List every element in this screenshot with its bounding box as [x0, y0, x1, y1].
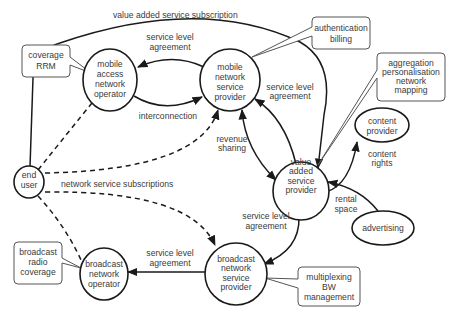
label-rental-space: rental [335, 194, 357, 204]
label-sla-vas: agreement [269, 91, 311, 101]
edge-interconnection [134, 96, 202, 106]
callout-text: coverage [28, 50, 64, 60]
node-label: mobile [97, 59, 123, 69]
callout-text: management [304, 292, 355, 302]
node-label: end [22, 170, 37, 180]
node-label: mobile [217, 62, 243, 72]
callout-text: BW [322, 282, 337, 292]
node-broadcast-network-operator: broadcast network operator [80, 248, 128, 300]
node-label: provider [220, 282, 251, 292]
label-sla-mobile: agreement [149, 42, 191, 52]
callout-multiplexing: multiplexing BW management [265, 267, 360, 306]
label-interconnection: interconnection [139, 111, 198, 121]
label-rental-space: space [335, 204, 358, 214]
callout-text: broadcast [19, 247, 57, 257]
node-label: operator [94, 89, 126, 99]
label-content-rights: rights [371, 158, 392, 168]
node-mobile-network-service-provider: mobile network service provider [200, 49, 260, 111]
label-network-service-subscriptions: network service subscriptions [61, 179, 173, 189]
callout-coverage-rrm: coverage RRM [22, 45, 91, 77]
node-label: provider [366, 126, 397, 136]
label-sla-bc: service level [146, 248, 193, 258]
edge-sla-vasp-mnsp [255, 99, 296, 164]
label-value-added-service-subscription: value added service subscription [113, 10, 238, 20]
node-mobile-access-network-operator: mobile access network operator [83, 49, 137, 111]
node-label: advertising [362, 223, 404, 233]
label-sla-mobile: service level [146, 32, 193, 42]
node-end-user: end user [14, 166, 44, 198]
node-advertising: advertising [352, 211, 414, 245]
edge-end-user-bnsp [45, 192, 215, 245]
node-content-provider: content provider [355, 108, 409, 142]
callout-text: authentication [314, 23, 368, 33]
callout-text: radio [28, 257, 47, 267]
edges [30, 19, 378, 272]
callout-broadcast-radio-coverage: broadcast radio coverage [14, 242, 81, 284]
node-label: access [97, 69, 124, 79]
node-label: network [95, 79, 126, 89]
label-sla-bc: agreement [149, 258, 191, 268]
node-label: provider [285, 185, 316, 195]
callout-text: billing [330, 34, 352, 44]
callout-text: coverage [20, 267, 56, 277]
node-label: network [221, 263, 252, 273]
node-label: service [216, 82, 243, 92]
edge-revenue-sharing [242, 110, 276, 180]
node-label: broadcast [85, 259, 123, 269]
callout-text: RRM [36, 61, 56, 71]
label-revenue-sharing: sharing [218, 143, 246, 153]
node-label: content [368, 116, 397, 126]
node-label: added [289, 166, 313, 176]
node-label: network [215, 72, 246, 82]
node-label: operator [88, 279, 120, 289]
callout-text: mapping [395, 85, 428, 95]
node-label: network [89, 269, 120, 279]
ecosystem-diagram: coverage RRM authentication billing aggr… [0, 0, 453, 316]
callout-text: multiplexing [306, 272, 352, 282]
label-sla-bc-vas: service level [242, 211, 289, 221]
label-sla-bc-vas: agreement [245, 221, 287, 231]
edge-end-user-mano [38, 103, 92, 170]
edge-sla-mnsp-mano [138, 60, 204, 68]
node-label: user [21, 180, 38, 190]
node-label: provider [214, 92, 245, 102]
edge-content-rights [326, 142, 357, 192]
node-broadcast-network-service-provider: broadcast network service provider [205, 243, 267, 305]
